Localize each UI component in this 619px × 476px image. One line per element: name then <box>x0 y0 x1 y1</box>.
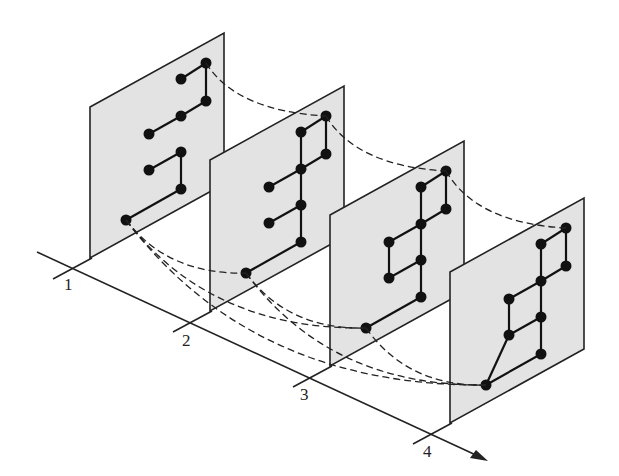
graph-node <box>201 96 212 107</box>
panel-3 <box>330 141 464 366</box>
graph-node <box>144 165 155 176</box>
graph-node <box>296 237 307 248</box>
graph-node <box>441 204 452 215</box>
graph-node <box>296 164 307 175</box>
graph-node <box>176 74 187 85</box>
axis-tick-2 <box>173 311 212 332</box>
graph-node <box>504 294 515 305</box>
axis-tick-1 <box>53 258 92 279</box>
graph-node <box>536 276 547 287</box>
graph-node <box>504 330 515 341</box>
graph-node <box>296 127 307 138</box>
graph-node <box>176 111 187 122</box>
graph-node <box>416 292 427 303</box>
graph-node <box>144 129 155 140</box>
graph-node <box>416 182 427 193</box>
axis-label-4: 4 <box>423 442 432 461</box>
diagram-svg: 1 2 3 4 <box>0 0 619 476</box>
graph-node <box>296 200 307 211</box>
graph-node <box>176 147 187 158</box>
diagram: 1 2 3 4 <box>0 0 619 476</box>
graph-node <box>264 182 275 193</box>
axis-label-3: 3 <box>300 385 309 404</box>
graph-node <box>416 219 427 230</box>
graph-node <box>536 239 547 250</box>
axis-label-1: 1 <box>64 275 73 294</box>
panel-1 <box>90 33 224 258</box>
panel-2 <box>210 86 344 311</box>
graph-node <box>176 184 187 195</box>
graph-node <box>536 312 547 323</box>
graph-node <box>321 149 332 160</box>
graph-node <box>536 349 547 360</box>
graph-node <box>416 255 427 266</box>
axis-label-2: 2 <box>182 331 191 350</box>
graph-node <box>264 218 275 229</box>
graph-node <box>384 273 395 284</box>
graph-node <box>384 237 395 248</box>
axis-tick-3 <box>293 366 332 387</box>
graph-node <box>561 261 572 272</box>
axis-arrow-icon <box>470 450 488 461</box>
panel-4 <box>450 198 584 423</box>
